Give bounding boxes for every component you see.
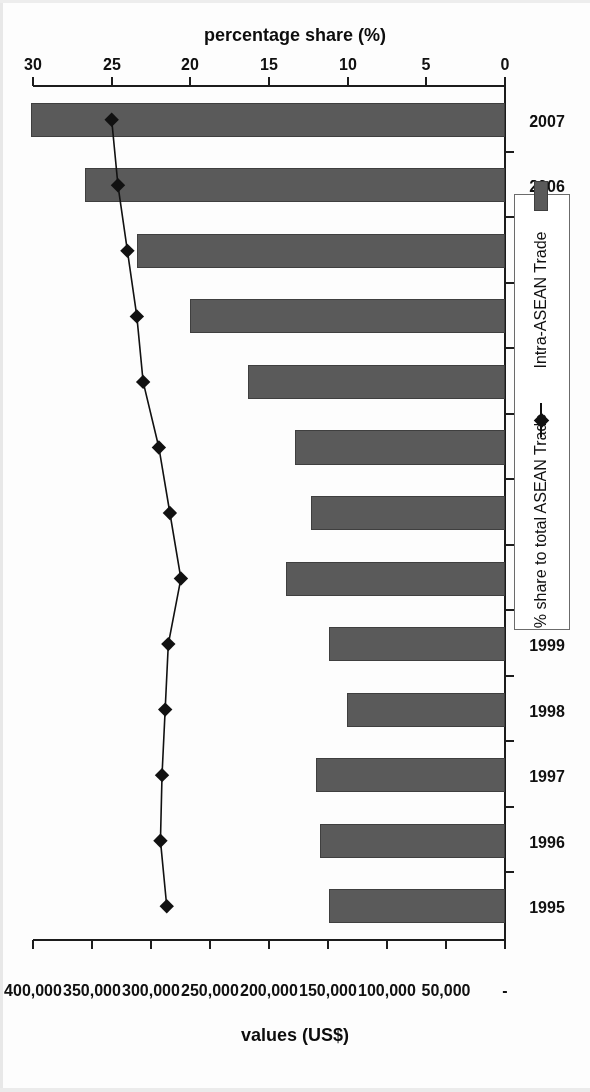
diamond-marker-icon	[153, 833, 167, 847]
diamond-marker-icon	[136, 375, 150, 389]
percentage-share-line-series	[0, 0, 590, 1092]
diamond-marker-icon	[174, 571, 188, 585]
legend-entry-intra-asean-trade: Intra-ASEAN Trade	[513, 193, 569, 407]
chart-page: 051015202530 -50,000100,000150,000200,00…	[0, 0, 590, 1092]
diamond-marker-icon	[161, 637, 175, 651]
diamond-marker-icon	[130, 309, 144, 323]
diamond-marker-icon	[158, 702, 172, 716]
chart-figure: 051015202530 -50,000100,000150,000200,00…	[0, 0, 590, 1092]
legend-label: % share to total ASEAN Trade	[532, 414, 550, 628]
diamond-marker-icon	[152, 440, 166, 454]
diamond-marker-icon	[111, 178, 125, 192]
diamond-marker-icon	[163, 506, 177, 520]
legend-label: Intra-ASEAN Trade	[532, 232, 550, 369]
diamond-marker-icon	[104, 113, 118, 127]
percentage-axis-title: percentage share (%)	[0, 25, 590, 46]
legend-entry-percent-share: % share to total ASEAN Trade	[513, 423, 569, 619]
values-axis-title: values (US$)	[0, 1025, 590, 1046]
chart-legend: Intra-ASEAN Trade% share to total ASEAN …	[514, 194, 570, 630]
plot-area: 051015202530 -50,000100,000150,000200,00…	[0, 0, 590, 1092]
legend-bar-swatch-icon	[534, 181, 548, 211]
diamond-marker-icon	[160, 899, 174, 913]
diamond-marker-icon	[120, 244, 134, 258]
diamond-marker-icon	[155, 768, 169, 782]
